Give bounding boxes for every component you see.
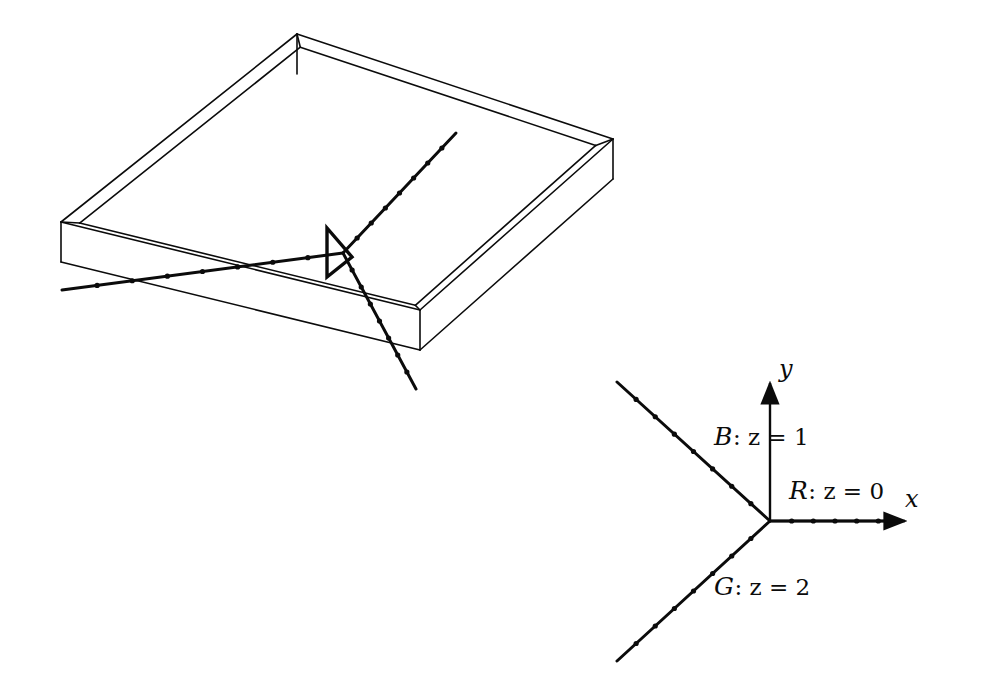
ray-left-dot-5 [165,274,170,279]
slab-corner-connector-3 [61,222,80,223]
ray-label-G: G: z = 2 [714,574,810,599]
ray-B-dot-7 [634,397,639,402]
ray-lower-right-dot-4 [377,318,382,323]
ray-R-dot-2 [811,518,816,523]
ray-left-dot-2 [270,260,275,265]
ray-G-dot-1 [748,536,753,541]
ray-G-dot-4 [691,588,696,593]
ray-B-dot-1 [748,501,753,506]
ray-label-B: B: z = 1 [714,424,809,449]
ray-B-dot-5 [672,432,677,437]
ray-upper-right-dot-3 [383,205,388,210]
ray-left-dot-7 [95,283,100,288]
ray-label-R-letter: R [789,476,808,505]
slab-bottom-edge-front-left [61,262,420,350]
axis-label-x: x [905,487,919,511]
ray-B-dot-2 [729,484,734,489]
ray-label-R-body: : z = 0 [808,478,884,504]
slab-top-edge-3 [61,34,297,222]
ray-R-dot-4 [854,518,859,523]
axis-label-x-text: x [905,485,919,513]
figure-canvas [0,0,989,699]
ray-upper-right-dot-1 [355,235,360,240]
slab-inner-rim-edge-0 [300,47,595,145]
ray-label-B-body: : z = 1 [733,424,809,450]
slab-top-edge-0 [297,34,613,139]
slab-bottom-edge-front-right [420,179,613,350]
ray-G-dot-7 [634,641,639,646]
3d-slab [61,34,613,350]
ray-B-dot-3 [710,466,715,471]
ray-G-dot-2 [729,553,734,558]
axis-label-y: y [779,357,793,381]
ray-upper-right-dot-6 [425,160,430,165]
axis-label-y-text: y [779,355,793,383]
ray-left-dot-4 [200,269,205,274]
ray-lower-right-dot-7 [404,369,409,374]
ray-left-dot-1 [305,255,310,260]
slab-inner-rim-edge-3 [80,47,301,223]
ray-R-dot-1 [789,518,794,523]
ray-upper-right-dot-4 [397,190,402,195]
ray-label-B-letter: B [714,422,733,451]
ray-R-dot-5 [876,518,881,523]
ray-G-dot-6 [653,623,658,628]
ray-B-dot-4 [691,449,696,454]
ray-label-G-body: : z = 2 [734,574,810,600]
ray-label-R: R: z = 0 [789,478,884,503]
ray-label-G-letter: G [714,572,734,601]
ray-upper-right-dot-2 [369,220,374,225]
ray-left-dot-6 [130,278,135,283]
ray-left-dot-3 [235,264,240,269]
ray-lower-right-dot-3 [368,301,373,306]
slab-top-edge-1 [420,139,613,310]
ray-upper-right-dot-7 [439,145,444,150]
ray-lower-right-dot-1 [350,267,355,272]
ray-B-dot-6 [653,414,658,419]
slab-inner-rim-edge-1 [415,145,595,305]
ray-G-dot-5 [672,606,677,611]
ray-lower-right-dot-2 [359,284,364,289]
ray-upper-right-dot-5 [411,175,416,180]
figure-root: y x R: z = 0 B: z = 1 G: z = 2 [0,0,989,699]
ray-lower-right-dot-5 [386,335,391,340]
slab-ray-group [62,133,456,389]
ray-lower-right-dot-6 [395,352,400,357]
ray-R-dot-3 [832,518,837,523]
